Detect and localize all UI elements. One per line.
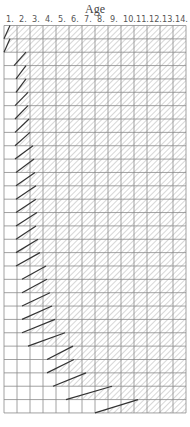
hatched-region (16, 199, 186, 212)
hatched-region (16, 186, 186, 199)
hatched-region (95, 400, 186, 413)
hatched-region (16, 66, 186, 79)
hatched-region (22, 279, 186, 292)
hatched-region (53, 373, 186, 386)
hatched-region (16, 213, 186, 226)
hatched-region (16, 79, 186, 92)
hatched-region (47, 360, 186, 373)
hatched-region (16, 253, 186, 266)
age-grid-diagram (0, 0, 190, 427)
hatched-region (22, 319, 186, 332)
hatched-region (16, 159, 186, 172)
hatched-region (16, 239, 186, 252)
hatched-region (28, 333, 186, 346)
hatched-region (16, 172, 186, 185)
hatched-region (66, 386, 186, 399)
hatched-region (22, 266, 186, 279)
hatched-region (16, 226, 186, 239)
